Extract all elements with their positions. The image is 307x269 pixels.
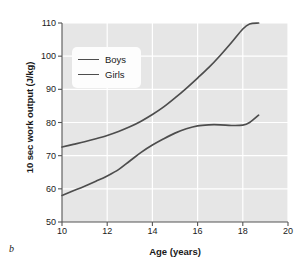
x-tick-label: 10 (47, 227, 77, 236)
chart-legend: Boys Girls (72, 47, 141, 88)
legend-item-girls[interactable]: Girls (78, 67, 141, 82)
x-tick-label: 14 (137, 227, 167, 236)
y-axis-title: 10 sec work output (J/kg) (24, 23, 35, 213)
x-tick-label: 18 (228, 227, 258, 236)
legend-line-swatch-girls (78, 74, 99, 75)
x-axis-tick-labels: 101214161820 (0, 227, 307, 247)
x-tick-label: 20 (273, 227, 303, 236)
legend-label-girls: Girls (105, 70, 125, 80)
legend-line-swatch-boys (78, 59, 99, 60)
figure-panel-b: 5060708090100110 101214161820 10 sec wor… (0, 0, 307, 269)
legend-item-boys[interactable]: Boys (78, 52, 141, 67)
x-tick-label: 16 (183, 227, 213, 236)
x-axis-title: Age (years) (62, 246, 288, 257)
panel-letter-label: b (9, 243, 14, 254)
y-tick-label: 50 (26, 218, 56, 227)
x-tick-label: 12 (92, 227, 122, 236)
legend-label-boys: Boys (105, 55, 126, 65)
